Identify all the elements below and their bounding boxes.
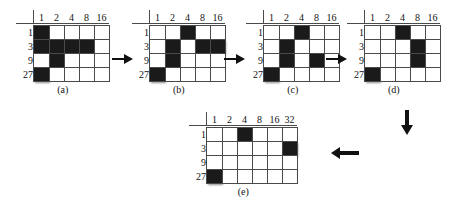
column-header-row: 124816 — [132, 10, 225, 24]
grid-cell-filled — [165, 54, 180, 68]
column-header-row: 124816 — [16, 10, 109, 24]
column-header: 4 — [294, 10, 309, 24]
panel-d: 12481613927 (d) — [347, 10, 441, 96]
grid-cell-empty — [380, 68, 395, 82]
row-header: 3 — [189, 142, 207, 156]
row-header: 27 — [189, 170, 207, 184]
grid-cell-empty — [294, 68, 309, 82]
grid-cell-empty — [282, 170, 297, 184]
row-header: 27 — [132, 68, 150, 82]
column-header: 2 — [222, 112, 237, 126]
column-header: 1 — [365, 10, 381, 24]
grid-cell-empty — [94, 54, 109, 68]
row-header: 3 — [16, 40, 34, 54]
grid-cell-empty — [222, 156, 237, 170]
grid-cell-empty — [324, 68, 339, 82]
column-header: 16 — [267, 112, 282, 126]
column-header: 1 — [150, 10, 166, 24]
grid-cell-empty — [94, 68, 109, 82]
column-header-row: 124816 — [246, 10, 339, 24]
column-header: 4 — [395, 10, 410, 24]
column-header-row: 12481632 — [189, 112, 297, 126]
column-header: 2 — [165, 10, 180, 24]
grid-cell-filled — [49, 54, 64, 68]
grid-corner — [189, 112, 207, 126]
grid-cell-empty — [282, 156, 297, 170]
grid-cell-empty — [150, 54, 166, 68]
grid-table-a: 12481613927 — [16, 10, 110, 82]
grid-cell-empty — [279, 26, 294, 40]
grid-cell-empty — [267, 142, 282, 156]
row-header: 3 — [246, 40, 264, 54]
grid-row: 1 — [16, 26, 109, 40]
grid-cell-filled — [64, 40, 79, 54]
grid-cell-empty — [267, 156, 282, 170]
grid-cell-empty — [64, 26, 79, 40]
grid-cell-empty — [425, 54, 440, 68]
grid-corner — [16, 10, 34, 24]
grid-row: 9 — [347, 54, 440, 68]
grid-row: 9 — [16, 54, 109, 68]
column-header: 2 — [279, 10, 294, 24]
panel-d-caption: (d) — [347, 84, 441, 96]
grid-cell-empty — [222, 170, 237, 184]
grid-cell-filled — [279, 40, 294, 54]
grid-row: 9 — [132, 54, 225, 68]
grid-cell-empty — [395, 68, 410, 82]
column-header: 16 — [324, 10, 339, 24]
grid-cell-empty — [365, 54, 381, 68]
grid-table-b: 12481613927 — [132, 10, 226, 82]
grid-row: 1 — [132, 26, 225, 40]
arrow-down-to-e-left-icon — [330, 146, 360, 160]
row-header: 1 — [246, 26, 264, 40]
grid-cell-filled — [195, 40, 210, 54]
grid-cell-empty — [207, 156, 223, 170]
grid-cell-filled — [34, 68, 50, 82]
grid-cell-filled — [410, 40, 425, 54]
grid-cell-empty — [324, 26, 339, 40]
column-header: 2 — [380, 10, 395, 24]
row-header: 9 — [16, 54, 34, 68]
grid-table-d: 12481613927 — [347, 10, 441, 82]
panel-e-caption: (e) — [189, 186, 298, 198]
panel-b-grid: 12481613927 — [132, 10, 226, 82]
grid-row: 1 — [189, 128, 297, 142]
column-header: 8 — [309, 10, 324, 24]
row-header: 1 — [132, 26, 150, 40]
grid-cell-filled — [282, 142, 297, 156]
grid-row: 27 — [132, 68, 225, 82]
grid-cell-empty — [49, 68, 64, 82]
column-header-row: 124816 — [347, 10, 440, 24]
grid-cell-empty — [150, 26, 166, 40]
column-header: 32 — [282, 112, 297, 126]
grid-cell-filled — [165, 40, 180, 54]
row-header: 27 — [347, 68, 365, 82]
grid-cell-empty — [252, 156, 267, 170]
grid-cell-empty — [380, 54, 395, 68]
grid-row: 3 — [189, 142, 297, 156]
grid-cell-filled — [150, 68, 166, 82]
grid-cell-empty — [282, 128, 297, 142]
grid-cell-empty — [410, 26, 425, 40]
grid-cell-empty — [222, 142, 237, 156]
grid-cell-empty — [210, 54, 225, 68]
grid-row: 9 — [189, 156, 297, 170]
grid-cell-empty — [410, 68, 425, 82]
grid-cell-empty — [237, 142, 252, 156]
arrow-a-to-b-icon — [112, 52, 134, 66]
grid-cell-empty — [195, 68, 210, 82]
grid-cell-empty — [309, 40, 324, 54]
column-header: 4 — [180, 10, 195, 24]
figure-canvas: 12481613927 (a) 12481613927 (b) 12481613… — [0, 0, 467, 210]
grid-cell-empty — [395, 54, 410, 68]
grid-cell-filled — [210, 40, 225, 54]
row-header: 9 — [189, 156, 207, 170]
panel-d-grid: 12481613927 — [347, 10, 441, 82]
panel-b-caption: (b) — [132, 84, 226, 96]
grid-cell-empty — [79, 26, 94, 40]
grid-cell-empty — [264, 26, 280, 40]
row-header: 27 — [246, 68, 264, 82]
row-header: 1 — [347, 26, 365, 40]
grid-cell-empty — [267, 170, 282, 184]
column-header: 16 — [425, 10, 440, 24]
